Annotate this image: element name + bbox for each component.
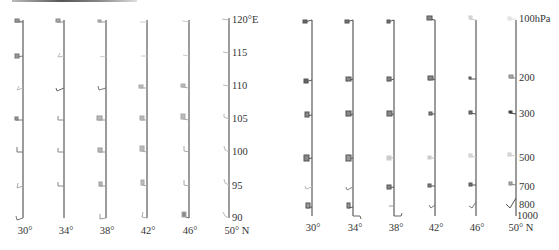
right-wind-barb-plot bbox=[0, 0, 559, 250]
right-y-label-700: 700 bbox=[519, 181, 535, 192]
right-x-label-38: 38° bbox=[389, 222, 404, 233]
right-y-label-300: 300 bbox=[519, 108, 535, 119]
right-y-label-1000: 1000 bbox=[517, 210, 538, 221]
right-y-label-100hpa: 100hPa bbox=[519, 13, 551, 24]
right-y-label-200: 200 bbox=[519, 72, 535, 83]
right-y-label-500: 500 bbox=[519, 152, 535, 163]
right-x-label-34: 34° bbox=[348, 222, 363, 233]
right-wind-panel: 100hPa 200 300 500 700 800 1000 30° 34° … bbox=[0, 0, 559, 250]
right-x-label-50: 50° N bbox=[509, 222, 534, 233]
right-x-label-46: 46° bbox=[470, 222, 485, 233]
right-x-label-42: 42° bbox=[429, 222, 444, 233]
right-y-label-800: 800 bbox=[519, 199, 535, 210]
right-x-label-30: 30° bbox=[306, 222, 321, 233]
